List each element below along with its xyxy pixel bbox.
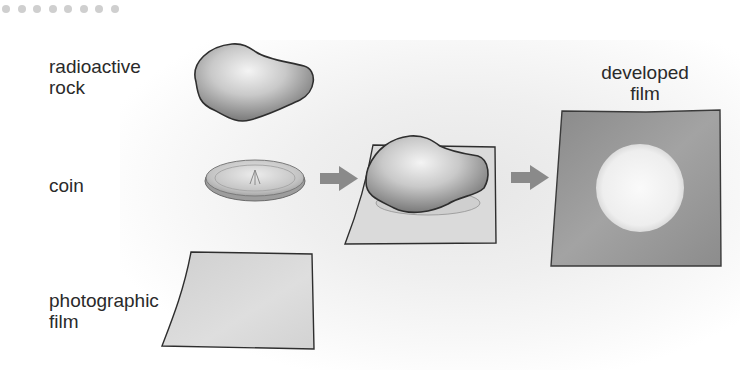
label-photographic-film: photographic film (49, 290, 159, 332)
label-line: developed (590, 62, 700, 83)
label-line: rock (49, 77, 141, 98)
label-developed-film: developed film (590, 62, 700, 104)
label-coin: coin (49, 175, 84, 196)
developed-film-icon (551, 110, 721, 266)
assembly-icon (345, 136, 496, 244)
label-line: film (590, 83, 700, 104)
arrow-right-icon (320, 166, 358, 191)
label-line: radioactive (49, 56, 141, 77)
label-line: coin (49, 175, 84, 196)
arrow-right-icon (511, 165, 549, 190)
label-line: film (49, 311, 159, 332)
coin-icon (205, 160, 305, 201)
photographic-film-icon (162, 252, 314, 349)
exposed-spot (596, 144, 684, 232)
label-line: photographic (49, 290, 159, 311)
label-radioactive-rock: radioactive rock (49, 56, 141, 98)
radioactive-rock-icon (195, 44, 313, 121)
